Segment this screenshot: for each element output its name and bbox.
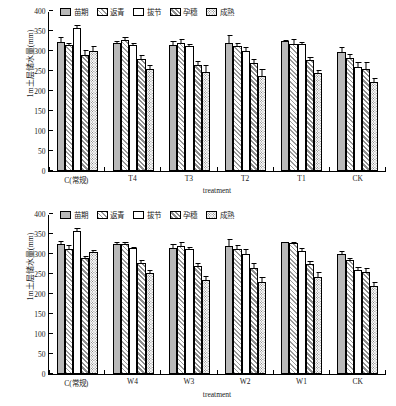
y-tick-label: 50: [38, 351, 49, 359]
legend-swatch: [133, 211, 144, 219]
bar-slot: [169, 215, 177, 374]
bar-slot: [89, 12, 97, 171]
bar-slot: [346, 12, 354, 171]
bar-slot: [362, 12, 370, 171]
bar-group: [274, 12, 330, 171]
error-bar: [68, 43, 69, 45]
bar: [298, 44, 306, 171]
y-tick-label: 300: [34, 48, 49, 56]
bar: [370, 286, 378, 374]
error-bar-cap: [139, 55, 144, 56]
error-bar: [197, 263, 198, 267]
bar-cluster: [169, 12, 210, 171]
bar: [202, 280, 210, 374]
error-bar: [349, 54, 350, 58]
bar-slot: [113, 12, 121, 171]
error-bar-cap: [148, 65, 153, 66]
bar: [81, 258, 89, 374]
error-bar-cap: [291, 242, 296, 243]
bar: [370, 82, 378, 171]
error-bar-cap: [364, 268, 369, 269]
bar-slot: [250, 215, 258, 374]
bar: [121, 244, 129, 374]
error-bar: [116, 41, 117, 43]
y-tick-label: 50: [38, 148, 49, 156]
error-bar-cap: [59, 37, 64, 38]
error-bar-cap: [235, 43, 240, 44]
error-bar-cap: [283, 40, 288, 41]
bar: [73, 231, 81, 374]
bar-slot: [89, 215, 97, 374]
x-tick-label: T2: [217, 174, 273, 185]
bar: [346, 260, 354, 374]
error-bar-cap: [244, 249, 249, 250]
bar-slot: [233, 12, 241, 171]
legend-swatch: [170, 211, 181, 219]
error-bar: [93, 250, 94, 253]
error-bar-cap: [316, 70, 321, 71]
error-bar-cap: [179, 242, 184, 243]
error-bar: [253, 263, 254, 269]
legend-swatch: [206, 211, 217, 219]
error-bar-cap: [83, 256, 88, 257]
error-bar-cap: [171, 41, 176, 42]
legend-swatch: [60, 211, 71, 219]
error-bar: [60, 241, 61, 244]
bar: [354, 270, 362, 374]
bar-slot: [73, 215, 81, 374]
bar-group: [218, 215, 274, 374]
bar: [65, 45, 73, 171]
bar-slot: [202, 12, 210, 171]
bar: [250, 268, 258, 374]
bar: [225, 43, 233, 171]
bar-slot: [337, 12, 345, 171]
error-bar-cap: [196, 61, 201, 62]
error-bar-cap: [171, 244, 176, 245]
error-bar-cap: [300, 42, 305, 43]
error-bar-cap: [123, 37, 128, 38]
legend-label: 拔节: [147, 6, 161, 17]
error-bar: [374, 282, 375, 286]
error-bar-cap: [308, 261, 313, 262]
error-bar-cap: [75, 228, 80, 229]
bar-group: [161, 12, 217, 171]
legend-swatch: [206, 8, 217, 16]
y-tick-label: 400: [34, 211, 49, 219]
bar-slot: [370, 12, 378, 171]
bar-slot: [146, 215, 154, 374]
bar-group: [49, 12, 105, 171]
legend-swatch: [97, 211, 108, 219]
error-bar-cap: [308, 57, 313, 58]
bar-slot: [169, 12, 177, 171]
error-bar: [93, 46, 94, 50]
y-tick-label: 300: [34, 251, 49, 259]
error-bar: [341, 251, 342, 255]
bar-slot: [57, 215, 65, 374]
error-bar: [68, 245, 69, 249]
bar: [57, 244, 65, 374]
error-bar-cap: [115, 242, 120, 243]
x-tick-mark: [49, 167, 50, 171]
bar: [81, 55, 89, 171]
error-bar: [77, 228, 78, 231]
error-bar: [293, 242, 294, 243]
error-bar-cap: [364, 62, 369, 63]
bar: [146, 69, 154, 171]
error-bar-cap: [59, 241, 64, 242]
error-bar: [366, 268, 367, 272]
legend-label: 苗期: [74, 209, 88, 220]
legend-item: 成熟: [206, 209, 234, 220]
legend-label: 孕穗: [183, 209, 197, 220]
bar: [306, 60, 314, 171]
bar: [354, 67, 362, 171]
bar: [314, 277, 322, 374]
bar: [146, 273, 154, 374]
error-bar: [133, 247, 134, 249]
error-bar-cap: [91, 250, 96, 251]
bar-slot: [298, 12, 306, 171]
bar-slot: [354, 12, 362, 171]
error-bar-cap: [123, 242, 128, 243]
error-bar-cap: [204, 276, 209, 277]
bar: [242, 254, 250, 374]
legend-item: 返青: [97, 6, 125, 17]
